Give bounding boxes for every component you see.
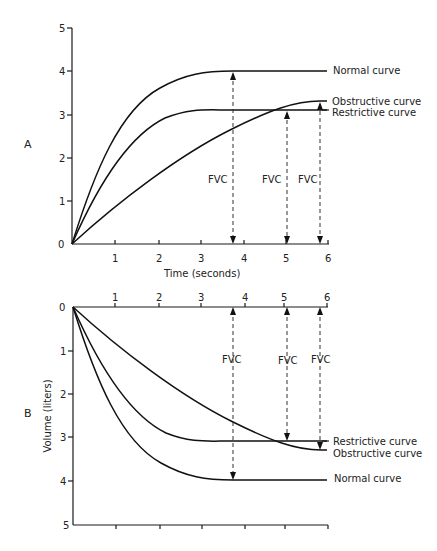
y-tick-label: 2	[59, 153, 65, 164]
y-tick-label: 1	[59, 196, 65, 207]
panel-b-y-ticks: 0 1 2 3 4 5	[59, 302, 73, 531]
panel-b-fvc-label: FVC	[222, 354, 242, 365]
y-tick-label: 1	[60, 346, 66, 357]
panel-a-label: A	[24, 138, 32, 151]
panel-a: A 0 1 2 3 4 5 1 2 3	[24, 23, 421, 279]
panel-a-obstructive-label: Obstructive curve	[332, 96, 421, 107]
spirometry-figure: A 0 1 2 3 4 5 1 2 3	[0, 0, 437, 551]
panel-b-fvc-label: FVC	[311, 354, 331, 365]
y-tick-label: 0	[59, 302, 65, 313]
x-tick-label: 4	[241, 253, 247, 264]
y-tick-label: 3	[59, 110, 65, 121]
x-tick-label: 3	[198, 292, 204, 303]
y-tick-label: 5	[59, 23, 65, 34]
panel-b: B Volume (liters) 0 1 2 3 4 5 1	[24, 292, 422, 531]
y-tick-label: 3	[60, 432, 66, 443]
panel-b-label: B	[24, 407, 32, 420]
x-tick-label: 4	[242, 292, 248, 303]
x-tick-label: 1	[112, 253, 118, 264]
panel-b-x-ticks: 1 2 3 4 5 6	[112, 292, 330, 529]
panel-b-normal-curve	[73, 307, 327, 480]
y-tick-label: 0	[58, 239, 64, 250]
y-tick-label: 4	[59, 66, 65, 77]
x-tick-label: 6	[325, 253, 331, 264]
panel-b-obstructive-label: Obstructive curve	[333, 448, 422, 459]
y-tick-label: 4	[60, 476, 66, 487]
x-tick-label: 2	[156, 253, 162, 264]
panel-b-restrictive-label: Restrictive curve	[333, 436, 417, 447]
panel-a-normal-curve	[72, 71, 327, 244]
panel-a-x-axis-title: Time (seconds)	[163, 268, 240, 279]
panel-b-normal-label: Normal curve	[334, 473, 401, 484]
x-tick-label: 2	[156, 292, 162, 303]
panel-a-normal-label: Normal curve	[333, 65, 400, 76]
panel-a-fvc-label: FVC	[208, 174, 228, 185]
panel-a-fvc-label: FVC	[298, 174, 318, 185]
panel-a-fvc-label: FVC	[262, 174, 282, 185]
panel-a-restrictive-label: Restrictive curve	[332, 107, 416, 118]
panel-b-fvc-label: FVC	[278, 355, 298, 366]
panel-b-restrictive-curve	[73, 307, 327, 441]
y-tick-label: 2	[60, 389, 66, 400]
panel-a-restrictive-curve	[72, 110, 327, 244]
panel-b-y-axis-title: Volume (liters)	[42, 379, 53, 452]
x-tick-label: 3	[198, 253, 204, 264]
y-tick-label: 5	[63, 520, 69, 531]
x-tick-label: 5	[281, 292, 287, 303]
x-tick-label: 6	[324, 292, 330, 303]
x-tick-label: 5	[283, 253, 289, 264]
x-tick-label: 1	[112, 292, 118, 303]
panel-a-y-ticks: 0 1 2 3 4 5	[58, 23, 72, 250]
